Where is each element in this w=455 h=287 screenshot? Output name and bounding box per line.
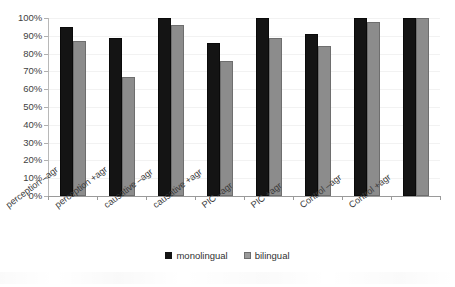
bar-monolingual: [354, 18, 367, 196]
bar-monolingual: [305, 34, 318, 196]
x-tick-mark: [440, 196, 441, 200]
legend-label: bilingual: [255, 250, 290, 261]
y-tick-label: 50%: [23, 102, 42, 112]
bar-group: [403, 18, 429, 196]
bar-bilingual: [171, 25, 184, 196]
legend-label: monolingual: [176, 250, 227, 261]
bar-bilingual: [269, 38, 282, 196]
y-tick-label: 60%: [23, 84, 42, 94]
x-tick-mark: [244, 196, 245, 200]
legend-swatch-monolingual-icon: [165, 252, 172, 259]
y-tick-label: 20%: [23, 155, 42, 165]
bar-bilingual: [73, 41, 86, 196]
bar-group: [354, 18, 380, 196]
x-tick-mark: [293, 196, 294, 200]
x-tick-mark: [391, 196, 392, 200]
bar-chart: 100%90%80%70%60%50%40%30%20%10%0% percep…: [0, 0, 455, 287]
bar-group: [158, 18, 184, 196]
bar-group: [60, 18, 86, 196]
bar-monolingual: [207, 43, 220, 196]
bar-monolingual: [109, 38, 122, 196]
y-tick-label: 70%: [23, 66, 42, 76]
x-tick-mark: [195, 196, 196, 200]
bar-monolingual: [158, 18, 171, 196]
x-tick-mark: [48, 196, 49, 200]
bar-monolingual: [60, 27, 73, 196]
bar-bilingual: [318, 46, 331, 196]
y-tick-label: 30%: [23, 138, 42, 148]
bar-group: [305, 18, 331, 196]
x-tick-mark: [97, 196, 98, 200]
scan-artifact-band: [0, 272, 455, 284]
bar-group: [256, 18, 282, 196]
bar-monolingual: [256, 18, 269, 196]
bar-group: [109, 18, 135, 196]
y-tick-label: 80%: [23, 49, 42, 59]
x-tick-mark: [146, 196, 147, 200]
y-tick-label: 40%: [23, 120, 42, 130]
y-tick-label: 100%: [18, 13, 42, 23]
legend-item-monolingual: monolingual: [165, 250, 227, 261]
bar-monolingual: [403, 18, 416, 196]
chart-legend: monolingualbilingual: [0, 250, 455, 261]
bar-bilingual: [416, 18, 429, 196]
x-tick-mark: [342, 196, 343, 200]
legend-item-bilingual: bilingual: [244, 250, 290, 261]
bar-bilingual: [367, 22, 380, 196]
legend-swatch-bilingual-icon: [244, 252, 251, 259]
bar-bilingual: [220, 61, 233, 196]
y-tick-label: 90%: [23, 31, 42, 41]
bar-group: [207, 18, 233, 196]
